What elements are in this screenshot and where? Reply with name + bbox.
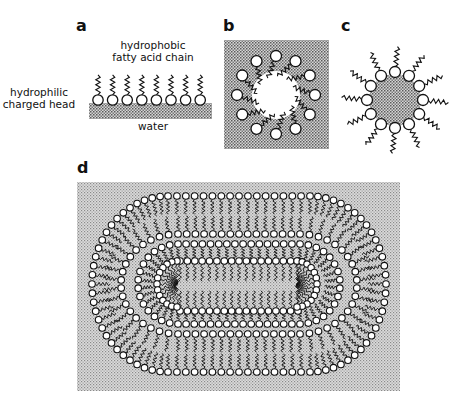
panel-label-a: a [76,16,87,35]
tail-label-line2: fatty acid chain [112,51,193,63]
water-label: water [138,120,169,132]
monolayer-lipids [93,75,206,105]
panel-a: a hydrophobic fatty acid chain hydrophil… [3,16,212,132]
panel-label-b: b [223,16,234,35]
head-label-line2: charged head [3,98,75,110]
panel-c: c [341,16,448,153]
water-layer [89,103,212,119]
hydrophobic-core [369,74,421,126]
panel-d: d [77,158,400,391]
panel-label-c: c [341,16,350,35]
panel-label-d: d [77,158,88,177]
tail-label-line1: hydrophobic [120,39,185,51]
panel-b: b [223,16,329,149]
head-label-line1: hydrophilic [10,86,68,98]
lipid-assembly-figure: a hydrophobic fatty acid chain hydrophil… [0,0,461,402]
